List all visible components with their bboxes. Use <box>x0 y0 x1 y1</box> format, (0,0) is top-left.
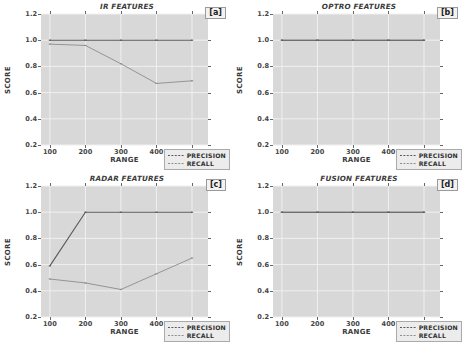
y-tick-label: 0.8 <box>257 234 269 242</box>
y-tick-label: 0.4 <box>25 115 37 123</box>
y-tick-label: 1.0 <box>25 36 37 44</box>
x-tick-label: 100 <box>275 148 289 156</box>
y-tick-label: 0.6 <box>25 89 37 97</box>
legend-row-precision: PRECISION <box>400 152 458 159</box>
y-axis-label: SCORE <box>234 186 246 317</box>
plot-svg-a <box>41 14 208 145</box>
panel-a: IR FEATURES SCORE 0.20.40.60.81.01.21002… <box>0 0 232 172</box>
y-axis-label: SCORE <box>2 14 14 145</box>
y-tick-mark-right <box>440 212 443 213</box>
y-tick-mark-right <box>440 265 443 266</box>
y-tick-label: 0.8 <box>25 62 37 70</box>
precision-line-swatch-icon <box>400 325 416 330</box>
legend-row-recall: RECALL <box>400 332 458 339</box>
panel-tag-b: [b] <box>437 7 458 19</box>
y-tick-label: 1.0 <box>257 36 269 44</box>
y-tick-mark-right <box>440 119 443 120</box>
panel-d: FUSION FEATURES SCORE 0.20.40.60.81.01.2… <box>232 172 464 344</box>
panel-title: RADAR FEATURES <box>0 174 232 183</box>
panel-tag-d: [d] <box>437 179 458 191</box>
recall-line-swatch-icon <box>168 333 184 338</box>
legend-label-precision: PRECISION <box>419 324 458 331</box>
panel-tag-a: [a] <box>205 7 226 19</box>
plot-svg-b <box>273 14 440 145</box>
legend-b: PRECISION RECALL <box>396 149 462 170</box>
y-tick-mark-right <box>208 145 211 146</box>
x-tick-label: 200 <box>79 320 93 328</box>
x-tick-label: 300 <box>114 320 128 328</box>
x-tick-label: 400 <box>382 320 396 328</box>
legend-row-recall: RECALL <box>400 160 458 167</box>
y-tick-mark-right <box>208 66 211 67</box>
x-tick-label: 100 <box>275 320 289 328</box>
legend-label-precision: PRECISION <box>419 152 458 159</box>
y-tick-mark-right <box>208 212 211 213</box>
x-tick-label: 200 <box>79 148 93 156</box>
y-tick-mark-right <box>440 291 443 292</box>
legend-row-precision: PRECISION <box>400 324 458 331</box>
y-tick-mark-right <box>208 40 211 41</box>
legend-row-precision: PRECISION <box>168 152 226 159</box>
y-tick-label: 1.2 <box>257 182 269 190</box>
x-tick-label: 300 <box>114 148 128 156</box>
y-tick-mark-right <box>208 265 211 266</box>
legend-c: PRECISION RECALL <box>164 321 230 342</box>
recall-line-swatch-icon <box>400 161 416 166</box>
plot-area-c <box>41 186 208 317</box>
precision-line-swatch-icon <box>168 325 184 330</box>
legend-label-recall: RECALL <box>187 332 214 339</box>
legend-row-recall: RECALL <box>168 332 226 339</box>
panel-title: FUSION FEATURES <box>232 174 464 183</box>
plot-svg-c <box>41 186 208 317</box>
recall-line-swatch-icon <box>400 333 416 338</box>
y-tick-label: 0.2 <box>25 313 37 321</box>
y-tick-label: 0.2 <box>257 313 269 321</box>
panel-title: OPTRO FEATURES <box>232 2 464 11</box>
y-tick-mark-right <box>208 317 211 318</box>
panel-c: RADAR FEATURES SCORE 0.20.40.60.81.01.21… <box>0 172 232 344</box>
panel-b: OPTRO FEATURES SCORE 0.20.40.60.81.01.21… <box>232 0 464 172</box>
legend-d: PRECISION RECALL <box>396 321 462 342</box>
y-tick-mark-right <box>208 93 211 94</box>
y-tick-mark-right <box>440 317 443 318</box>
y-tick-label: 0.2 <box>25 141 37 149</box>
y-tick-mark-right <box>440 93 443 94</box>
x-tick-label: 200 <box>311 148 325 156</box>
precision-line-swatch-icon <box>168 153 184 158</box>
precision-line-swatch-icon <box>400 153 416 158</box>
y-tick-mark <box>38 317 41 318</box>
y-tick-mark-right <box>440 238 443 239</box>
y-tick-label: 1.0 <box>257 208 269 216</box>
figure-grid: IR FEATURES SCORE 0.20.40.60.81.01.21002… <box>0 0 465 344</box>
y-tick-label: 0.4 <box>257 287 269 295</box>
legend-row-precision: PRECISION <box>168 324 226 331</box>
y-tick-mark <box>270 145 273 146</box>
y-tick-label: 1.0 <box>25 208 37 216</box>
legend-a: PRECISION RECALL <box>164 149 230 170</box>
y-tick-mark-right <box>208 291 211 292</box>
y-tick-mark-right <box>440 40 443 41</box>
y-tick-label: 0.6 <box>257 261 269 269</box>
x-tick-label: 100 <box>43 320 57 328</box>
y-axis-label: SCORE <box>234 14 246 145</box>
y-tick-mark-right <box>440 66 443 67</box>
legend-label-recall: RECALL <box>419 160 446 167</box>
y-tick-label: 0.4 <box>257 115 269 123</box>
y-tick-mark-right <box>440 145 443 146</box>
y-tick-label: 0.6 <box>25 261 37 269</box>
y-tick-mark-right <box>208 119 211 120</box>
y-tick-label: 1.2 <box>25 10 37 18</box>
y-tick-mark <box>38 145 41 146</box>
y-tick-label: 1.2 <box>25 182 37 190</box>
recall-line-swatch-icon <box>168 161 184 166</box>
panel-title: IR FEATURES <box>0 2 232 11</box>
plot-area-d <box>273 186 440 317</box>
plot-area-a <box>41 14 208 145</box>
plot-area-b <box>273 14 440 145</box>
y-tick-label: 1.2 <box>257 10 269 18</box>
x-tick-label: 400 <box>150 320 164 328</box>
y-axis-label: SCORE <box>2 186 14 317</box>
y-tick-label: 0.8 <box>257 62 269 70</box>
legend-label-recall: RECALL <box>419 332 446 339</box>
legend-row-recall: RECALL <box>168 160 226 167</box>
